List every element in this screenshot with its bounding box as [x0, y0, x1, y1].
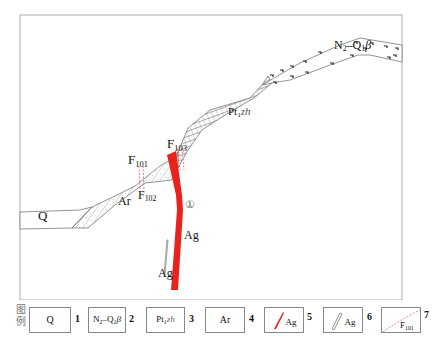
pt-main: Pt: [228, 105, 237, 117]
legend-num-3: 3: [189, 313, 194, 324]
pt-suffix: zh: [241, 105, 251, 117]
legend-num-4: 4: [249, 313, 254, 324]
unit-pt1zh: [178, 76, 272, 168]
label-ag-small: Ag: [158, 266, 173, 281]
legend-label-fault: F101: [400, 320, 420, 331]
n-main: N: [334, 38, 343, 52]
legend-item-ag-outline: Ag: [323, 307, 363, 333]
legend-label-ar: Ar: [206, 314, 244, 325]
f102-sub: 102: [145, 194, 157, 203]
legend-title-line1: 图: [16, 304, 28, 316]
label-f103: F103: [167, 136, 187, 153]
f101-sub: 101: [135, 159, 148, 169]
legend-label-ag-outline: Ag: [338, 317, 362, 327]
legend-num-6: 6: [367, 311, 372, 322]
legend-label-n2q1b: N2–Q1β: [89, 314, 125, 325]
legend-item-n2q1b: N2–Q1β: [88, 307, 126, 333]
f102-main: F: [138, 188, 145, 202]
legend-item-pt1zh: Pt1zh: [146, 307, 185, 333]
label-orebody-number: ①: [185, 198, 195, 211]
label-ag-main: Ag: [184, 228, 199, 243]
legend-label-q: Q: [30, 314, 70, 325]
label-q: Q: [38, 208, 47, 224]
legend-title-line2: 例: [16, 316, 28, 328]
f103-sub: 103: [174, 143, 187, 153]
unit-n2q1b: [262, 38, 402, 85]
legend-num-2: 2: [129, 313, 134, 324]
label-n2q1b: N2–Q1β: [334, 38, 371, 53]
n-suffix: β: [365, 38, 371, 52]
legend-label-pt1zh: Pt1zh: [147, 314, 184, 325]
unit-ar: [72, 152, 178, 228]
legend-item-ar: Ar: [205, 307, 245, 333]
label-ar: Ar: [118, 194, 131, 209]
n-mid: –Q: [347, 38, 362, 52]
label-f102: F102: [138, 188, 156, 203]
legend-num-1: 1: [75, 313, 80, 324]
label-pt1zh: Pt1zh: [228, 105, 251, 119]
legend-item-ag-red: Ag: [264, 307, 304, 333]
legend-item-q: Q: [29, 307, 71, 333]
legend-item-fault: F101: [381, 307, 421, 333]
legend-label-ag-red: Ag: [279, 317, 303, 327]
legend-num-5: 5: [307, 311, 312, 322]
legend-title: 图 例: [16, 304, 28, 328]
geological-map: [0, 0, 440, 300]
legend-num-7: 7: [424, 309, 429, 320]
label-f101: F101: [128, 152, 148, 169]
